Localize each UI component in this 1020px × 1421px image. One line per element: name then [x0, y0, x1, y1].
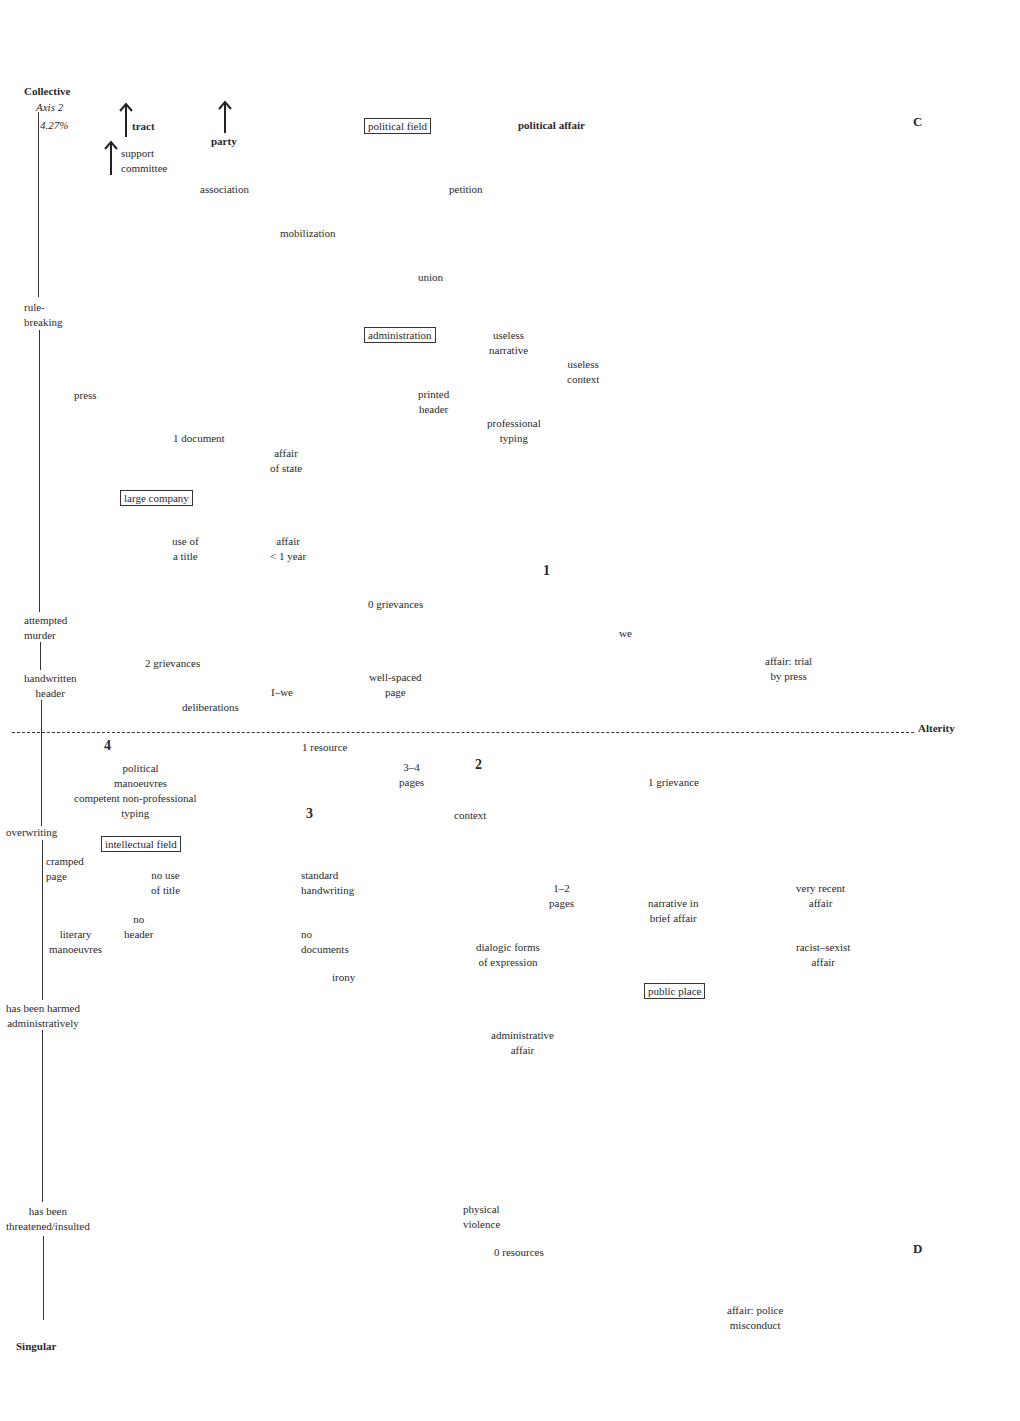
- point-one-two-pages: 1–2 pages: [549, 881, 574, 910]
- vertical-axis-line-upper: [38, 112, 39, 297]
- axis-label-has-been-harmed: has been harmed administratively: [6, 1001, 80, 1030]
- cluster-number-3: 3: [306, 806, 313, 822]
- arrow-label-tract: tract: [132, 119, 155, 134]
- point-association: association: [200, 182, 249, 197]
- point-two-grievances: 2 grievances: [145, 656, 200, 671]
- vertical-axis-line-6: [42, 1030, 43, 1202]
- point-political-affair: political affair: [518, 118, 585, 133]
- axis-right-label: Alterity: [918, 721, 955, 736]
- cluster-number-1: 1: [543, 563, 550, 579]
- arrow-label-support-committee: support committee: [121, 146, 167, 175]
- axis-label-attempted-murder: attempted murder: [24, 613, 67, 642]
- point-dialogic-forms: dialogic forms of expression: [476, 940, 540, 969]
- point-zero-grievances: 0 grievances: [368, 597, 423, 612]
- axis-label-rule-breaking: rule- breaking: [24, 300, 62, 329]
- point-useless-narrative: useless narrative: [489, 328, 528, 357]
- point-no-use-of-title: no use of title: [151, 868, 180, 897]
- cluster-number-2: 2: [475, 757, 482, 773]
- point-no-documents: no documents: [301, 927, 349, 956]
- axis-inertia-label: 4.27%: [40, 118, 68, 133]
- boxed-label-intellectual-field: intellectual field: [101, 836, 181, 852]
- vertical-axis-line-4: [41, 700, 42, 826]
- point-zero-resources: 0 resources: [494, 1245, 544, 1260]
- quadrant-label-d: D: [913, 1242, 922, 1257]
- point-one-grievance: 1 grievance: [648, 775, 699, 790]
- point-union: union: [418, 270, 443, 285]
- point-affair-lt-1-year: affair < 1 year: [270, 534, 306, 563]
- point-physical-violence: physical violence: [463, 1202, 500, 1231]
- quadrant-label-c: C: [913, 115, 922, 130]
- arrow-up-icon-party: [218, 100, 232, 134]
- point-press: press: [74, 388, 97, 403]
- arrow-label-party: party: [211, 134, 237, 149]
- point-literary-manoeuvres: literary manoeuvres: [49, 927, 102, 956]
- axis-name-label: Axis 2: [36, 100, 63, 115]
- point-competent-typing: competent non-professional typing: [74, 791, 197, 820]
- point-use-of-a-title: use of a title: [172, 534, 199, 563]
- point-mobilization: mobilization: [280, 226, 336, 241]
- cluster-number-4: 4: [104, 738, 111, 754]
- axis-bottom-label: Singular: [16, 1339, 56, 1354]
- arrow-up-icon-tract: [119, 102, 133, 138]
- axis-top-label: Collective: [24, 84, 70, 99]
- point-irony: irony: [332, 970, 355, 985]
- point-racist-sexist-affair: racist–sexist affair: [796, 940, 850, 969]
- point-no-header: no header: [124, 912, 153, 941]
- point-one-resource: 1 resource: [302, 740, 348, 755]
- point-three-four-pages: 3–4 pages: [399, 760, 424, 789]
- point-narrative-brief-affair: narrative in brief affair: [648, 896, 698, 925]
- vertical-axis-line-5: [42, 840, 43, 1000]
- boxed-label-administration: administration: [364, 327, 436, 343]
- horizontal-axis-dashed-line: [12, 732, 914, 733]
- point-we: we: [619, 626, 632, 641]
- point-petition: petition: [449, 182, 483, 197]
- vertical-axis-line-2: [39, 330, 40, 612]
- axis-label-has-been-threatened: has been threatened/insulted: [6, 1204, 90, 1233]
- axis-label-handwritten-header: handwritten header: [24, 671, 77, 700]
- point-professional-typing: professional typing: [487, 416, 541, 445]
- point-police-misconduct: affair: police misconduct: [727, 1303, 783, 1332]
- point-very-recent-affair: very recent affair: [796, 881, 845, 910]
- vertical-axis-line-lower: [43, 1236, 44, 1320]
- point-printed-header: printed header: [418, 387, 449, 416]
- point-well-spaced-page: well-spaced page: [369, 670, 422, 699]
- arrow-up-icon-support-committee: [104, 140, 118, 176]
- factorial-plane-diagram: Collective Axis 2 4.27% Singular Alterit…: [0, 0, 1020, 1421]
- vertical-axis-line-3: [40, 642, 41, 670]
- point-standard-handwriting: standard handwriting: [301, 868, 354, 897]
- point-i-we: I–we: [271, 685, 293, 700]
- point-one-document: 1 document: [173, 431, 225, 446]
- point-deliberations: deliberations: [182, 700, 239, 715]
- point-useless-context: useless context: [567, 357, 599, 386]
- point-affair-of-state: affair of state: [270, 446, 302, 475]
- point-administrative-affair: administrative affair: [491, 1028, 554, 1057]
- boxed-label-political-field: political field: [364, 118, 431, 134]
- boxed-label-large-company: large company: [120, 490, 193, 506]
- point-affair-trial-by-press: affair: trial by press: [765, 654, 812, 683]
- boxed-label-public-place: public place: [644, 983, 705, 999]
- axis-label-overwriting: overwriting: [6, 825, 57, 840]
- point-cramped-page: cramped page: [46, 854, 84, 883]
- point-political-manoeuvres: political manoeuvres: [114, 761, 167, 790]
- point-context: context: [454, 808, 486, 823]
